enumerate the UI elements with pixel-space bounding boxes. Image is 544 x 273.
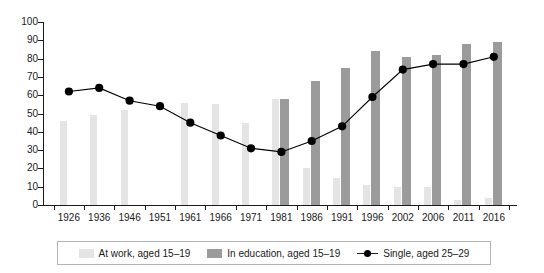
- x-tick-mark: [205, 205, 206, 210]
- y-tick-label: 80: [10, 54, 38, 64]
- line-series-single: [44, 22, 516, 205]
- line-marker-single: [156, 102, 164, 110]
- x-tick-mark: [84, 205, 85, 210]
- x-tick-mark: [114, 205, 115, 210]
- x-tick-mark: [418, 205, 419, 210]
- legend-item-in-education[interactable]: In education, aged 15–19: [207, 248, 340, 259]
- y-tick-label: 90: [10, 35, 38, 45]
- x-tick-mark: [175, 205, 176, 210]
- line-marker-single: [490, 53, 498, 61]
- line-marker-single: [338, 122, 346, 130]
- y-tick-label: 30: [10, 145, 38, 155]
- y-tick-label: 20: [10, 163, 38, 173]
- chart-legend: At work, aged 15–19 In education, aged 1…: [57, 241, 491, 265]
- y-tick-label: 10: [10, 182, 38, 192]
- x-tick-mark: [236, 205, 237, 210]
- y-tick-label: 40: [10, 127, 38, 137]
- line-marker-single: [247, 144, 255, 152]
- line-marker-single: [399, 66, 407, 74]
- line-marker-single: [277, 148, 285, 156]
- y-tick-label: 70: [10, 72, 38, 82]
- line-marker-single: [126, 97, 134, 105]
- legend-label-in-education: In education, aged 15–19: [227, 248, 340, 259]
- x-tick-mark: [54, 205, 55, 210]
- x-tick-label: 2016: [474, 212, 514, 223]
- line-marker-single: [186, 119, 194, 127]
- legend-item-single[interactable]: Single, aged 25–29: [357, 248, 469, 259]
- line-path-single: [69, 57, 494, 152]
- y-tick-label: 50: [10, 109, 38, 119]
- line-marker-single: [308, 137, 316, 145]
- line-marker-single: [95, 84, 103, 92]
- legend-swatch-in-education-icon: [207, 249, 222, 258]
- legend-swatch-single-icon: [357, 249, 378, 258]
- y-axis-labels: 0102030405060708090100: [4, 0, 38, 273]
- line-marker-single: [368, 93, 376, 101]
- legend-swatch-at-work-icon: [79, 249, 94, 258]
- line-marker-single: [429, 60, 437, 68]
- y-tick-label: 60: [10, 90, 38, 100]
- line-marker-single: [65, 87, 73, 95]
- legend-label-single: Single, aged 25–29: [383, 248, 469, 259]
- x-tick-mark: [357, 205, 358, 210]
- chart-container: 0102030405060708090100 19261936194619511…: [0, 0, 544, 273]
- x-tick-mark: [448, 205, 449, 210]
- legend-item-at-work[interactable]: At work, aged 15–19: [79, 248, 191, 259]
- y-tick-label: 0: [10, 200, 38, 210]
- x-tick-mark: [479, 205, 480, 210]
- y-tick-label: 100: [10, 17, 38, 27]
- x-tick-mark: [266, 205, 267, 210]
- line-marker-single: [217, 131, 225, 139]
- x-tick-mark: [388, 205, 389, 210]
- x-tick-mark: [509, 205, 510, 210]
- x-tick-mark: [327, 205, 328, 210]
- line-marker-single: [459, 60, 467, 68]
- x-tick-mark: [297, 205, 298, 210]
- x-tick-mark: [145, 205, 146, 210]
- legend-label-at-work: At work, aged 15–19: [99, 248, 191, 259]
